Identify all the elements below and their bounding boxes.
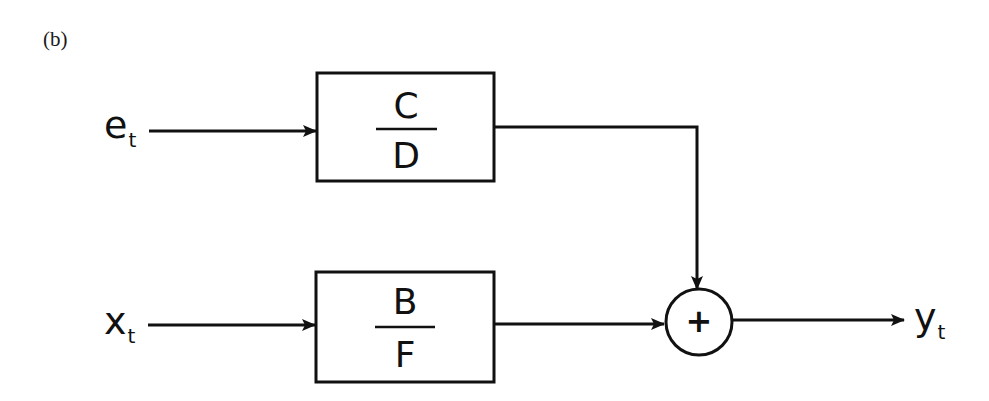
input-label-noise: et [104,106,136,144]
exogenous-symbol: x [104,299,127,343]
transfer-denominator: F [375,337,435,373]
noise-filter-denominator: D [376,138,436,174]
exogenous-subscript: t [128,324,136,348]
output-symbol: y [914,295,937,339]
plus-icon: + [679,305,719,337]
arrow-cd-to-sum [494,127,697,289]
block-diagram [0,0,989,401]
transfer-numerator: B [375,284,435,320]
noise-subscript: t [128,128,136,152]
output-label: yt [914,298,945,336]
noise-filter-numerator: C [376,88,436,124]
output-subscript: t [938,320,946,344]
input-label-exogenous: xt [104,302,135,340]
noise-symbol: e [104,103,127,147]
